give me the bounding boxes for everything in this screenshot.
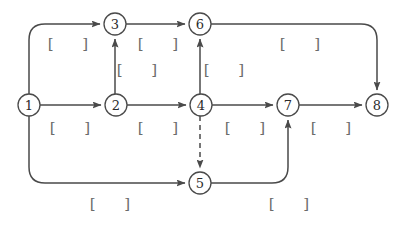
node-2[interactable]: 2 (105, 94, 127, 116)
node-8[interactable]: 8 (366, 94, 388, 116)
graph-diagram: 12345678 [ ][ ][ ][ ][ ][ ][ ][ ][ ][ ][… (0, 0, 404, 227)
node-5[interactable]: 5 (189, 172, 211, 194)
edge-label-e4-6: [ ] (204, 61, 244, 79)
node-6[interactable]: 6 (189, 13, 211, 35)
edge-label-e2-4: [ ] (138, 119, 178, 137)
edge-label-e4-7: [ ] (225, 119, 265, 137)
node-4-label: 4 (197, 98, 205, 113)
edge-label-e1-3: [ ] (48, 35, 88, 53)
edge-label-e7-8: [ ] (311, 119, 351, 137)
node-7[interactable]: 7 (277, 94, 299, 116)
node-2-label: 2 (112, 98, 120, 113)
node-1-label: 1 (25, 98, 33, 113)
node-8-label: 8 (373, 98, 381, 113)
node-4[interactable]: 4 (190, 94, 212, 116)
edge-label-e2-3: [ ] (117, 61, 157, 79)
edge-6-to-8 (211, 24, 377, 90)
node-3[interactable]: 3 (104, 13, 126, 35)
node-6-label: 6 (196, 17, 204, 32)
node-5-label: 5 (196, 176, 204, 191)
edge-label-e6-8: [ ] (280, 35, 320, 53)
edge-label-e3-6: [ ] (138, 35, 178, 53)
node-3-label: 3 (111, 17, 119, 32)
edge-label-e1-2: [ ] (50, 119, 90, 137)
node-7-label: 7 (284, 98, 292, 113)
edge-label-e5-7: [ ] (269, 195, 309, 213)
edge-label-e1-5: [ ] (90, 195, 130, 213)
node-1[interactable]: 1 (18, 94, 40, 116)
